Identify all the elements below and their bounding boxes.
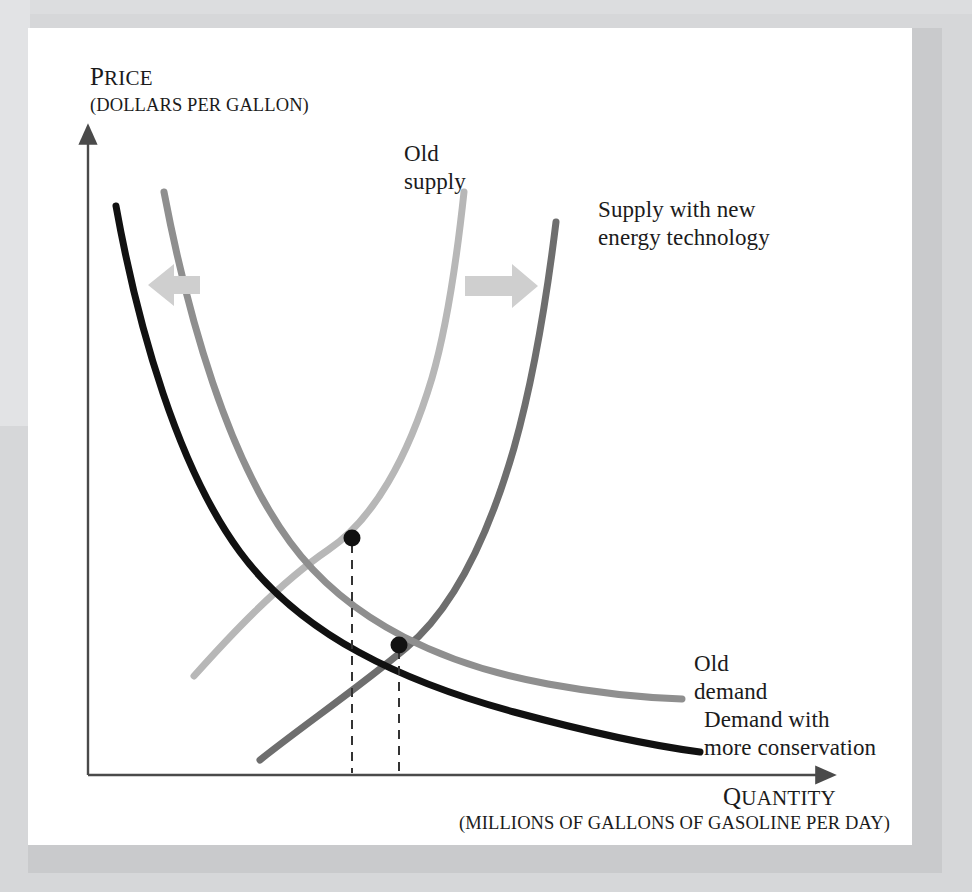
supply-shift-arrow-icon [465, 264, 538, 308]
label-new-supply: Supply with new energy technology [598, 196, 770, 252]
label-new-demand: Demand with more conservation [704, 706, 876, 762]
page-background-top-strip [0, 0, 972, 14]
y-axis-title-rest: RICE [104, 66, 153, 90]
y-axis-title-initial: P [90, 63, 104, 90]
label-old-supply: Old supply [404, 140, 466, 196]
page-background-left-strip [0, 0, 30, 426]
x-axis-title-initial: Q [723, 783, 741, 810]
new-equilibrium-dot [391, 637, 408, 654]
x-axis-subtitle: (MILLIONS OF GALLONS OF GASOLINE PER DAY… [459, 812, 890, 835]
demand-shift-arrow-icon [148, 264, 200, 306]
label-old-demand: Old demand [694, 650, 767, 706]
x-axis-title-rest: UANTITY [741, 786, 836, 810]
y-axis-title: PRICE [90, 62, 153, 93]
old-equilibrium-dot [344, 530, 361, 547]
y-axis-subtitle: (DOLLARS PER GALLON) [90, 94, 309, 117]
figure-stage: PRICE (DOLLARS PER GALLON) QUANTITY (MIL… [0, 0, 972, 892]
x-axis-title: QUANTITY [723, 782, 836, 813]
